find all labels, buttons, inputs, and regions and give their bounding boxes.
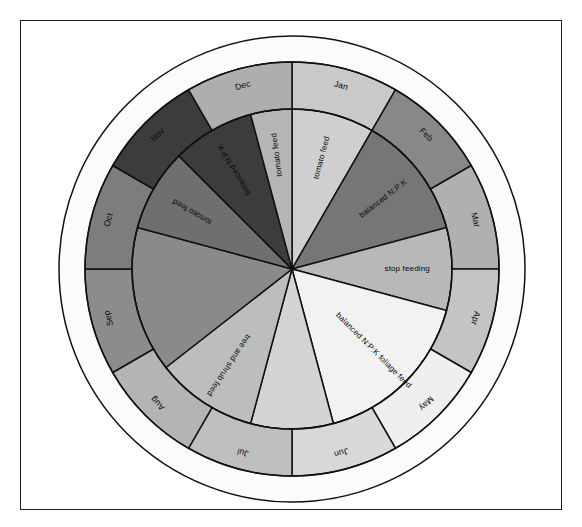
wheel-svg: JanFebMarAprMayJunJulAugSepOctNovDectoma… — [0, 0, 582, 527]
advice-label: stop feeding — [385, 264, 430, 273]
page-canvas: JanFebMarAprMayJunJulAugSepOctNovDectoma… — [0, 0, 582, 527]
feeding-calendar-wheel: JanFebMarAprMayJunJulAugSepOctNovDectoma… — [0, 0, 582, 527]
